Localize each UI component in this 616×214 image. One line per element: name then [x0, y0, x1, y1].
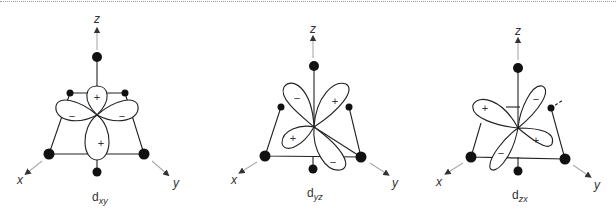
ligand-front-left: [466, 152, 477, 163]
orbital-figure: + − − + z x y dxy: [0, 0, 616, 214]
sign-label: −: [330, 156, 336, 168]
sign-label: +: [533, 134, 539, 146]
lobe-upper-right: [518, 86, 546, 128]
ligand-bottom: [93, 168, 102, 177]
ligand-bottom: [514, 167, 523, 176]
y-axis-arrow: [152, 161, 167, 174]
ligand-back-right: [548, 105, 555, 112]
panel-dyz: − + + − z x y dyz: [230, 22, 399, 202]
ligand-back-right: [122, 90, 129, 97]
sign-label: +: [290, 132, 296, 144]
x-axis-label: x: [16, 173, 24, 187]
x-axis-arrow: [27, 161, 42, 173]
caption-dzx: dzx: [512, 188, 528, 204]
lobe-upper-left: [283, 83, 314, 127]
y-axis-arrow: [370, 163, 387, 174]
sign-label: −: [69, 110, 75, 122]
caption-dyz: dyz: [307, 186, 323, 202]
x-axis-arrow: [241, 162, 257, 172]
z-axis-label: z: [93, 12, 100, 26]
sign-label: −: [294, 92, 300, 104]
ligand-front-left: [44, 149, 55, 160]
x-axis-label: x: [435, 175, 443, 189]
ligand-back-left: [278, 104, 285, 111]
sign-label: −: [498, 147, 504, 159]
sign-label: +: [98, 137, 104, 149]
lobe-lower-left: [282, 126, 314, 148]
ligand-top: [92, 52, 102, 62]
sign-label: −: [533, 93, 539, 105]
ligand-front-right: [560, 154, 571, 165]
y-axis-label: y: [593, 178, 601, 192]
sign-label: +: [94, 91, 100, 103]
z-axis-label: z: [514, 24, 521, 38]
x-axis-arrow: [447, 163, 463, 173]
sign-label: −: [119, 110, 125, 122]
ligand-top: [309, 61, 319, 71]
x-axis-label: x: [230, 173, 238, 187]
y-axis-label: y: [391, 176, 399, 190]
ligand-bottom: [309, 165, 318, 174]
sign-label: +: [332, 95, 338, 107]
ligand-front-left: [260, 151, 271, 162]
lobe-upper-left: [473, 99, 518, 128]
caption-dxy: dxy: [92, 190, 108, 206]
ligand-front-right: [356, 152, 367, 163]
ligand-back-left: [67, 90, 74, 97]
panel-dzx: + − + − z x y dzx: [435, 24, 601, 204]
ligand-top: [513, 63, 523, 73]
y-axis-arrow: [573, 165, 589, 176]
ligand-back-right: [346, 104, 353, 111]
panel-dxy: + − − + z x y dxy: [16, 12, 180, 206]
y-axis-label: y: [172, 176, 180, 190]
ligand-front-right: [139, 149, 150, 160]
sign-label: +: [482, 102, 488, 114]
z-axis-label: z: [309, 22, 316, 36]
